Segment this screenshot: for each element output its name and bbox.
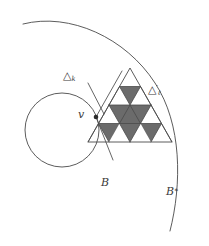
label-delta-k: △k xyxy=(63,70,76,83)
circle-b xyxy=(25,93,99,167)
grid-l-2 xyxy=(151,105,162,124)
label-vertex-v: v xyxy=(78,109,84,120)
label-delta-l-prime: △′ℓ xyxy=(148,84,161,97)
grid-r-3 xyxy=(88,124,99,143)
shaded-cell-row4-left xyxy=(99,124,120,143)
grid-l-3 xyxy=(162,124,173,143)
label-circle-b: B xyxy=(101,177,109,188)
shaded-cell-row4-right xyxy=(141,124,162,143)
circle-b-group xyxy=(25,93,99,167)
leader-line-delta-k xyxy=(88,83,104,114)
shaded-cell-row2-center xyxy=(120,87,141,106)
label-b-star-sup: ∗ xyxy=(174,186,179,194)
vertex-marker-v xyxy=(94,115,99,120)
math-figure: △k △′ℓ v B B∗ xyxy=(0,0,209,246)
label-circle-b-star: B∗ xyxy=(166,186,179,197)
sierpinski-triangle xyxy=(88,68,172,142)
figure-canvas xyxy=(0,0,209,246)
label-b-star-base: B xyxy=(166,185,174,198)
label-delta-l-sub: ℓ xyxy=(158,89,161,97)
label-delta-k-sub: k xyxy=(71,75,75,83)
grid-r-1 xyxy=(109,87,120,106)
